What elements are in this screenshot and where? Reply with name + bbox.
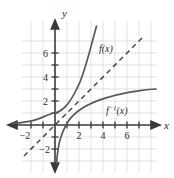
curve-label-f: f(x) [99, 43, 114, 55]
f-inverse-argument: (x) [116, 105, 128, 117]
graph-svg: y x −2 2 4 6 6 4 2 −2 f(x) f−1(x) [0, 0, 174, 178]
y-tick-label-4: 4 [43, 72, 48, 83]
y-axis-arrow-down [51, 163, 58, 172]
y-tick-label-2: 2 [43, 96, 48, 107]
curve-label-f-inverse: f−1(x) [106, 104, 128, 117]
y-tick-label-6: 6 [43, 48, 48, 59]
function-inverse-graph: y x −2 2 4 6 6 4 2 −2 f(x) f−1(x) [0, 0, 174, 178]
f-inverse-exponent: −1 [109, 104, 117, 111]
x-tick-label-4: 4 [101, 130, 106, 141]
y-tick-label-neg2: −2 [39, 144, 50, 155]
x-tick-label-neg2: −2 [20, 130, 31, 141]
x-axis-arrow-right [151, 121, 160, 128]
y-axis-label: y [61, 7, 67, 19]
x-axis-label: x [163, 119, 169, 131]
x-tick-label-2: 2 [77, 130, 82, 141]
curve-f-inverse [57, 89, 156, 163]
y-axis-arrow-up [51, 20, 58, 29]
x-tick-label-6: 6 [125, 130, 130, 141]
